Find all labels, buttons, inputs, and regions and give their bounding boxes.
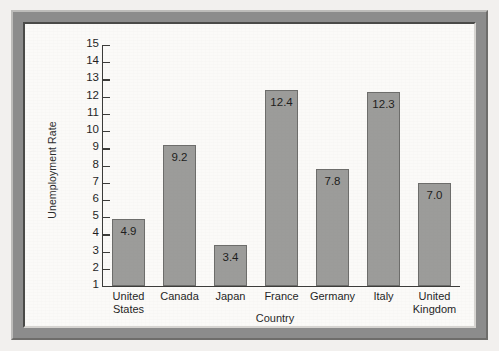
bar-series: 4.9United States9.2Canada3.4Japan12.4Fra… [103, 45, 460, 286]
y-tick-label: 10 [75, 123, 99, 135]
bar-value-label: 7.0 [419, 189, 450, 201]
bar-value-label: 9.2 [164, 151, 195, 163]
bar[interactable]: 4.9 [112, 219, 145, 286]
bar-value-label: 4.9 [113, 225, 144, 237]
y-tick-label: 14 [75, 54, 99, 66]
y-tick-label: 5 [75, 209, 99, 221]
bar[interactable]: 3.4 [214, 245, 247, 286]
bar-value-label: 3.4 [215, 251, 246, 263]
bar-slot: 4.9 [112, 45, 145, 286]
y-tick-label: 4 [75, 226, 99, 238]
bar-slot: 7.0 [418, 45, 451, 286]
bar-slot: 9.2 [163, 45, 196, 286]
y-tick-label: 15 [75, 37, 99, 49]
y-axis-label: Unemployment Rate [46, 100, 58, 240]
y-tick-label: 3 [75, 244, 99, 256]
bar[interactable]: 12.3 [367, 92, 400, 287]
x-axis-line [102, 286, 460, 287]
bar-value-label: 7.8 [317, 175, 348, 187]
bar[interactable]: 7.8 [316, 169, 349, 286]
bar[interactable]: 9.2 [163, 145, 196, 286]
bar-slot: 12.3 [367, 45, 400, 286]
y-tick-label: 6 [75, 192, 99, 204]
y-tick-label: 12 [75, 89, 99, 101]
picture-frame-outer: Unemployment Rate Country 15141312111098… [11, 10, 488, 340]
y-tick-label: 9 [75, 140, 99, 152]
y-tick-label: 7 [75, 175, 99, 187]
chart-canvas: Unemployment Rate Country 15141312111098… [25, 24, 480, 332]
y-tick [103, 286, 110, 287]
y-tick-label: 8 [75, 158, 99, 170]
y-tick-label: 13 [75, 71, 99, 83]
bar-value-label: 12.3 [368, 98, 399, 110]
y-tick-label: 11 [75, 106, 99, 118]
picture-frame-inner: Unemployment Rate Country 15141312111098… [23, 22, 476, 328]
bar[interactable]: 7.0 [418, 183, 451, 286]
y-tick-label: 1 [75, 278, 99, 290]
y-tick-label: 2 [75, 261, 99, 273]
bar[interactable]: 12.4 [265, 90, 298, 286]
x-category-label: United Kingdom [403, 290, 466, 315]
bar-slot: 12.4 [265, 45, 298, 286]
bar-slot: 3.4 [214, 45, 247, 286]
bar-slot: 7.8 [316, 45, 349, 286]
bar-value-label: 12.4 [266, 96, 297, 108]
